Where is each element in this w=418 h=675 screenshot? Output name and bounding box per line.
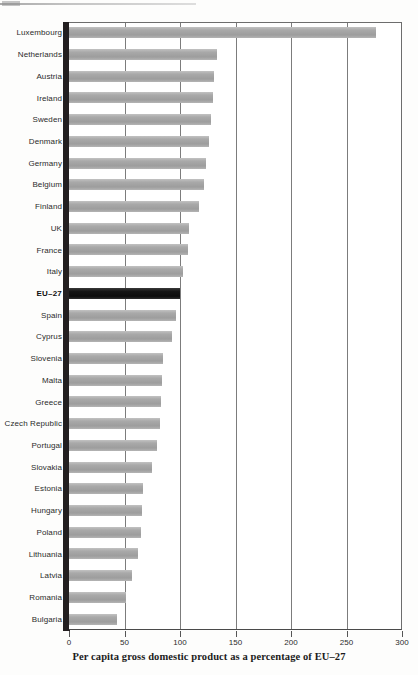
- category-label-spain: Spain: [41, 311, 62, 320]
- bar-row: [69, 565, 402, 587]
- category-label-slovenia: Slovenia: [31, 354, 63, 363]
- bar-row: [69, 87, 402, 109]
- bar-row: [69, 217, 402, 239]
- category-label-netherlands: Netherlands: [18, 50, 62, 59]
- category-label-germany: Germany: [28, 159, 62, 168]
- bar-chart: LuxembourgNetherlandsAustriaIrelandSwede…: [0, 0, 418, 675]
- category-label-hungary: Hungary: [31, 506, 62, 515]
- category-label-malta: Malta: [42, 376, 62, 385]
- bar-slovakia: [69, 462, 152, 473]
- bar-row: [69, 44, 402, 66]
- bar-estonia: [69, 483, 143, 494]
- bar-row: [69, 413, 402, 435]
- x-tick-label-50: 50: [120, 638, 129, 647]
- category-label-slovakia: Slovakia: [31, 463, 62, 472]
- bar-cyprus: [69, 331, 172, 342]
- x-tick-label-250: 250: [340, 638, 353, 647]
- bar-sweden: [69, 114, 211, 125]
- bar-row: [69, 131, 402, 153]
- bar-row: [69, 65, 402, 87]
- category-label-greece: Greece: [35, 398, 62, 407]
- x-tick-label-200: 200: [284, 638, 297, 647]
- bar-portugal: [69, 440, 157, 451]
- bar-row: [69, 283, 402, 305]
- bar-row: [69, 109, 402, 131]
- bar-finland: [69, 201, 199, 212]
- bar-row: [69, 478, 402, 500]
- bar-belgium: [69, 179, 204, 190]
- bar-row: [69, 456, 402, 478]
- category-label-bulgaria: Bulgaria: [32, 615, 62, 624]
- bar-row: [69, 500, 402, 522]
- bar-row: [69, 152, 402, 174]
- bar-italy: [69, 266, 183, 277]
- x-tick-150: [236, 631, 237, 637]
- x-tick-100: [180, 631, 181, 637]
- bar-hungary: [69, 505, 142, 516]
- category-label-uk: UK: [51, 224, 62, 233]
- category-label-cyprus: Cyprus: [36, 332, 62, 341]
- x-tick-300: [402, 631, 403, 637]
- bar-row: [69, 304, 402, 326]
- bar-greece: [69, 396, 161, 407]
- category-label-eu-27: EU–27: [37, 289, 62, 298]
- bar-spain: [69, 310, 176, 321]
- bar-ireland: [69, 92, 213, 103]
- x-tick-label-150: 150: [229, 638, 242, 647]
- category-label-denmark: Denmark: [29, 137, 62, 146]
- bar-row: [69, 261, 402, 283]
- category-label-luxembourg: Luxembourg: [17, 28, 62, 37]
- category-label-lithuania: Lithuania: [29, 550, 62, 559]
- x-tick-50: [125, 631, 126, 637]
- x-tick-label-0: 0: [67, 638, 71, 647]
- bar-austria: [69, 71, 214, 82]
- category-label-ireland: Ireland: [37, 94, 62, 103]
- category-label-italy: Italy: [47, 267, 62, 276]
- category-label-poland: Poland: [36, 528, 62, 537]
- bar-poland: [69, 527, 141, 538]
- bar-row: [69, 587, 402, 609]
- bar-slovenia: [69, 353, 163, 364]
- bar-lithuania: [69, 548, 138, 559]
- bar-row: [69, 174, 402, 196]
- bar-malta: [69, 375, 162, 386]
- bar-bulgaria: [69, 614, 117, 625]
- bar-germany: [69, 158, 206, 169]
- bar-row: [69, 391, 402, 413]
- bar-czech-republic: [69, 418, 160, 429]
- bar-eu-27: [69, 288, 180, 299]
- bar-row: [69, 239, 402, 261]
- bar-netherlands: [69, 49, 217, 60]
- x-tick-250: [347, 631, 348, 637]
- x-tick-label-300: 300: [395, 638, 408, 647]
- category-label-austria: Austria: [36, 72, 62, 81]
- x-tick-label-100: 100: [173, 638, 186, 647]
- bar-romania: [69, 592, 126, 603]
- category-label-czech-republic: Czech Republic: [5, 419, 62, 428]
- category-label-belgium: Belgium: [32, 180, 62, 189]
- category-label-latvia: Latvia: [40, 571, 62, 580]
- bar-row: [69, 369, 402, 391]
- bar-luxembourg: [69, 27, 376, 38]
- bar-row: [69, 22, 402, 44]
- x-tick-200: [291, 631, 292, 637]
- bar-france: [69, 244, 188, 255]
- category-label-estonia: Estonia: [35, 484, 62, 493]
- category-label-sweden: Sweden: [32, 115, 62, 124]
- bar-denmark: [69, 136, 209, 147]
- bar-row: [69, 435, 402, 457]
- figure-page: LuxembourgNetherlandsAustriaIrelandSwede…: [0, 0, 418, 675]
- bar-row: [69, 348, 402, 370]
- bar-row: [69, 608, 402, 630]
- category-label-france: France: [37, 246, 63, 255]
- bar-row: [69, 543, 402, 565]
- bar-uk: [69, 223, 189, 234]
- bar-row: [69, 326, 402, 348]
- category-label-finland: Finland: [35, 202, 62, 211]
- bar-rows: [69, 22, 402, 630]
- bar-row: [69, 196, 402, 218]
- x-tick-0: [69, 631, 70, 637]
- bar-row: [69, 521, 402, 543]
- category-label-portugal: Portugal: [31, 441, 62, 450]
- bar-latvia: [69, 570, 132, 581]
